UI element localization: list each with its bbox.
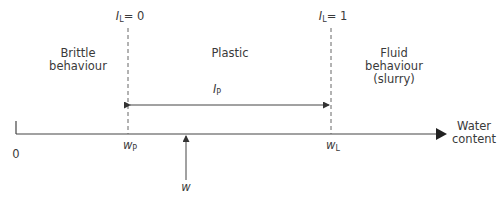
axis-title: Water content (448, 120, 500, 146)
liquidity-index-zero-label: IL= 0 (110, 10, 150, 26)
liquidity-index-one-label: IL= 1 (313, 10, 353, 26)
origin-label: 0 (10, 148, 22, 161)
plastic-limit-axis-label: wP (116, 139, 144, 155)
water-content-marker-label: w (178, 181, 194, 194)
plasticity-index-label: IP (205, 83, 229, 99)
region-brittle-label: Brittle behaviour (38, 47, 118, 73)
consistency-diagram: Brittle behaviour Plastic Fluid behaviou… (0, 0, 503, 202)
region-plastic-label: Plastic (200, 47, 260, 60)
axis-arrowhead-icon (436, 128, 447, 140)
region-fluid-label: Fluid behaviour (slurry) (354, 47, 434, 86)
liquid-limit-axis-label: wL (319, 139, 347, 155)
